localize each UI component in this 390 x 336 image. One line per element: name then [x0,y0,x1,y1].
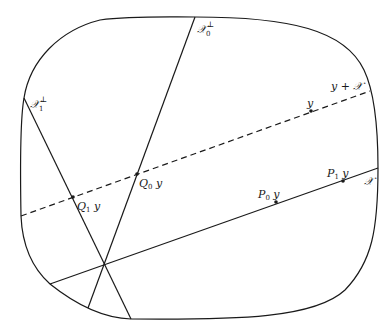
region-boundary [20,17,378,319]
label-x1-perp: 𝒳1⊥ [30,95,47,113]
line-x [50,168,378,284]
label-y: y [306,97,314,110]
point-q1y [71,195,75,199]
label-q0y: Q0 y [139,177,163,191]
label-x0-perp: 𝒳0⊥ [197,20,214,38]
point-q0y [135,172,139,176]
label-y-plus-x: y + 𝒳 [330,80,366,93]
label-x: 𝒳 [364,175,377,188]
projection-diagram: 𝒳0⊥ 𝒳1⊥ y + 𝒳 y Q0 y Q1 y P0 y P1 y 𝒳 [0,0,390,336]
label-p1y: P1 y [326,167,349,181]
label-q1y: Q1 y [77,200,101,214]
label-p0y: P0 y [257,188,280,202]
